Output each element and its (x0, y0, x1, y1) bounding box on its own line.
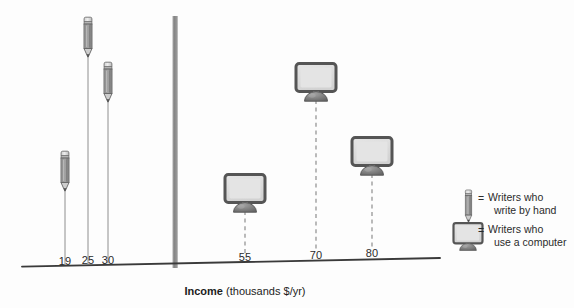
x-axis-title-units: (thousands $/yr) (223, 285, 306, 297)
data-point-55 (225, 175, 265, 213)
legend-label-hand-line1: Writers who (488, 191, 543, 204)
legend-label-hand-line2: write by hand (494, 204, 556, 217)
data-point-25 (84, 17, 92, 57)
x-axis-title: Income (thousands $/yr) (184, 285, 305, 297)
legend-label-computer-line2: use a computer (494, 236, 566, 249)
data-point-70 (296, 64, 336, 102)
x-tick-label-80: 80 (366, 247, 379, 259)
data-point-30 (104, 62, 112, 102)
x-tick-label-70: 70 (310, 249, 323, 261)
x-tick-label-25: 25 (82, 254, 95, 266)
x-axis-title-bold: Income (184, 285, 223, 297)
x-tick-label-55: 55 (239, 251, 252, 263)
data-point-19 (61, 151, 69, 191)
legend-icon-pencil (465, 190, 471, 222)
legend-equals-computer: = (478, 224, 484, 236)
x-tick-label-30: 30 (102, 254, 115, 266)
data-point-80 (352, 138, 392, 176)
pictograph-chart: 19 25 30 55 70 80 Income (thousands $/yr… (0, 0, 574, 308)
legend-label-computer-line1: Writers who (488, 223, 543, 236)
legend-equals-hand: = (478, 192, 484, 204)
x-tick-label-19: 19 (59, 255, 72, 267)
axis-break-bar (173, 16, 178, 268)
stem-lines-hand (65, 58, 108, 266)
